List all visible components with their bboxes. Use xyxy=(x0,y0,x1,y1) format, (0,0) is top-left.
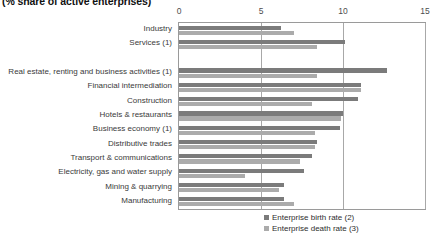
x-axis-tick-labels: 051015 xyxy=(178,6,426,20)
category-label: Business economy (1) xyxy=(93,124,172,133)
category-label: Transport & communications xyxy=(70,153,172,162)
legend-swatch-birth-icon xyxy=(264,215,269,220)
bar-death-rate xyxy=(179,145,315,149)
legend-item[interactable]: Enterprise birth rate (2) xyxy=(264,212,359,223)
bar-death-rate xyxy=(179,88,361,92)
bar-death-rate xyxy=(179,116,341,120)
bar-birth-rate xyxy=(179,111,343,115)
category-label: Financial intermediation xyxy=(88,81,173,90)
category-label: Industry xyxy=(144,24,172,33)
chart-title: (% share of active enterprises) xyxy=(2,0,151,7)
bar-birth-rate xyxy=(179,169,304,173)
category-label: Electricity, gas and water supply xyxy=(58,167,172,176)
category-label: Services (1) xyxy=(129,38,172,47)
bar-birth-rate xyxy=(179,83,361,87)
x-tick-label: 10 xyxy=(338,6,347,16)
bar-death-rate xyxy=(179,174,245,178)
bar-death-rate xyxy=(179,159,300,163)
bars-layer xyxy=(179,23,425,209)
bar-death-rate xyxy=(179,102,312,106)
x-tick-label: 5 xyxy=(259,6,264,16)
x-tick-label: 0 xyxy=(177,6,182,16)
bar-birth-rate xyxy=(179,140,317,144)
bar-birth-rate xyxy=(179,154,312,158)
bar-death-rate xyxy=(179,45,317,49)
bar-birth-rate xyxy=(179,126,340,130)
bar-birth-rate xyxy=(179,26,281,30)
bar-birth-rate xyxy=(179,183,284,187)
category-label: Construction xyxy=(127,96,172,105)
legend-swatch-death-icon xyxy=(264,226,269,231)
legend-label: Enterprise birth rate (2) xyxy=(272,212,354,223)
chart-legend: Enterprise birth rate (2)Enterprise deat… xyxy=(264,212,359,234)
bar-birth-rate xyxy=(179,97,358,101)
bar-death-rate xyxy=(179,188,279,192)
legend-item[interactable]: Enterprise death rate (3) xyxy=(264,223,359,234)
bar-death-rate xyxy=(179,31,294,35)
bar-death-rate xyxy=(179,202,294,206)
bar-death-rate xyxy=(179,131,315,135)
category-label: Distributive trades xyxy=(108,139,172,148)
legend-label: Enterprise death rate (3) xyxy=(272,223,359,234)
category-label: Manufacturing xyxy=(121,196,172,205)
bar-birth-rate xyxy=(179,68,387,72)
bar-birth-rate xyxy=(179,40,345,44)
bar-death-rate xyxy=(179,74,317,78)
category-axis-labels: IndustryServices (1)Real estate, renting… xyxy=(0,22,176,210)
category-label: Real estate, renting and business activi… xyxy=(8,67,172,76)
x-tick-label: 15 xyxy=(420,6,429,16)
bar-chart: (% share of active enterprises) 051015 I… xyxy=(0,0,432,239)
bar-birth-rate xyxy=(179,197,284,201)
gridline xyxy=(425,23,426,209)
category-label: Mining & quarrying xyxy=(105,182,172,191)
category-label: Hotels & restaurants xyxy=(100,110,172,119)
